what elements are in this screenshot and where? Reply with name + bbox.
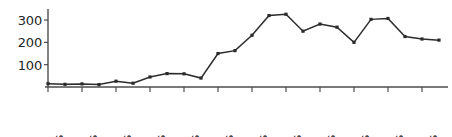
x-axis-tick-label: 1660s — [223, 135, 236, 137]
line-chart: 100200300 1560s1580s1600s1620s1640s1660s… — [0, 0, 452, 137]
x-axis-tick-label: 1640s — [189, 135, 202, 137]
x-axis-tick-label: 1560s — [53, 135, 66, 137]
x-axis-tick-label: 1580s — [87, 135, 100, 137]
x-axis-tick-label: 1620s — [155, 135, 168, 137]
x-axis-tick-label: 1780s — [427, 135, 440, 137]
x-axis-tick-label: 1740s — [359, 135, 372, 137]
x-axis-tick-labels: 1560s1580s1600s1620s1640s1660s1680s1700s… — [0, 0, 452, 137]
x-axis-tick-label: 1720s — [325, 135, 338, 137]
x-axis-tick-label: 1760s — [393, 135, 406, 137]
x-axis-tick-label: 1680s — [257, 135, 270, 137]
x-axis-tick-label: 1600s — [121, 135, 134, 137]
x-axis-tick-label: 1700s — [291, 135, 304, 137]
